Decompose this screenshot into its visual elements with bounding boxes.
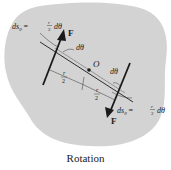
rotation-diagram: F F O dθ dθ dsθ= r 2 dθ dsθ= r 2 dθ r 2 … bbox=[0, 0, 171, 150]
ds-top-tail: dθ bbox=[54, 22, 62, 31]
origin-point bbox=[87, 68, 91, 72]
half-r-left-den: 2 bbox=[62, 78, 65, 84]
origin-label: O bbox=[93, 59, 100, 69]
force-label-top: F bbox=[68, 28, 74, 38]
ds-bottom-tail: dθ bbox=[157, 106, 165, 115]
rigid-body bbox=[4, 3, 167, 147]
figure-caption: Rotation bbox=[0, 152, 171, 164]
angle-label-top: dθ bbox=[76, 43, 84, 52]
ds-bottom-num: r bbox=[151, 104, 153, 109]
angle-label-bottom: dθ bbox=[110, 67, 118, 76]
force-label-bottom: F bbox=[111, 116, 117, 126]
rotation-figure: F F O dθ dθ dsθ= r 2 dθ dsθ= r 2 dθ r 2 … bbox=[0, 0, 171, 170]
ds-top-num: r bbox=[48, 20, 50, 25]
half-r-right-den: 2 bbox=[95, 95, 98, 101]
